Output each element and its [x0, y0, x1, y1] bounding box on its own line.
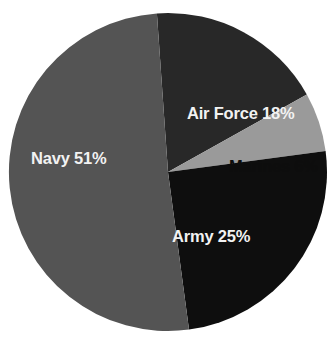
pie-slices-group [9, 13, 327, 331]
pie-chart: Air Force 18% Marines 6% Army 25% Navy 5… [0, 0, 335, 347]
pie-chart-canvas [0, 0, 335, 347]
pie-slice-army[interactable] [168, 151, 327, 330]
